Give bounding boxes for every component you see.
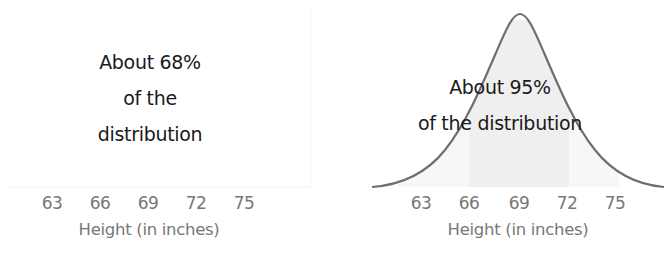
x-tick-label: 69 (128, 193, 168, 213)
annotation-line: distribution (60, 116, 240, 152)
annotation-line: About 68% (60, 44, 240, 80)
annotation-line: About 95% (350, 69, 650, 105)
chart-panel-95-percent: About 95% of the distribution 63 66 69 7… (330, 0, 664, 259)
annotation-95-percent: About 95% of the distribution (350, 69, 650, 141)
annotation-line: of the distribution (350, 105, 650, 141)
annotation-line: of the (60, 80, 240, 116)
x-tick-label: 69 (499, 193, 539, 213)
x-axis-label: Height (in inches) (408, 220, 628, 239)
x-tick-label: 75 (595, 193, 635, 213)
x-tick-label: 72 (176, 193, 216, 213)
x-tick-label: 66 (449, 193, 489, 213)
x-tick-label: 63 (32, 193, 72, 213)
x-tick-label: 66 (80, 193, 120, 213)
annotation-68-percent: About 68% of the distribution (60, 44, 240, 152)
x-axis-label: Height (in inches) (39, 220, 259, 239)
chart-panel-68-percent: About 68% of the distribution 63 66 69 7… (0, 0, 330, 259)
x-tick-label: 75 (224, 193, 264, 213)
x-tick-label: 63 (401, 193, 441, 213)
x-tick-label: 72 (547, 193, 587, 213)
